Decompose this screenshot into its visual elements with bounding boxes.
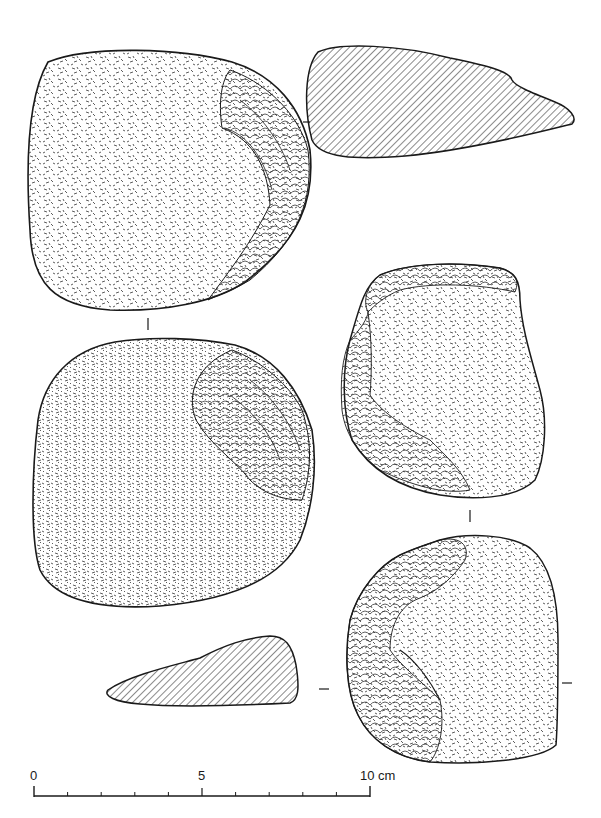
- scale-label-5: 5: [198, 768, 205, 783]
- artifact-d-face: [347, 536, 558, 763]
- artifact-b-ventral: [33, 338, 314, 606]
- artifact-a-dorsal: [28, 50, 311, 310]
- artifact-b-cross-section: [107, 636, 298, 706]
- scale-label-10cm: 10 cm: [360, 768, 395, 783]
- scale-label-0: 0: [30, 768, 37, 783]
- artifact-c-face: [341, 264, 544, 498]
- artifact-a-cross-section: [307, 46, 574, 158]
- scale-bar: [34, 786, 370, 797]
- artifact-plate: 0 5 10 cm: [0, 0, 601, 818]
